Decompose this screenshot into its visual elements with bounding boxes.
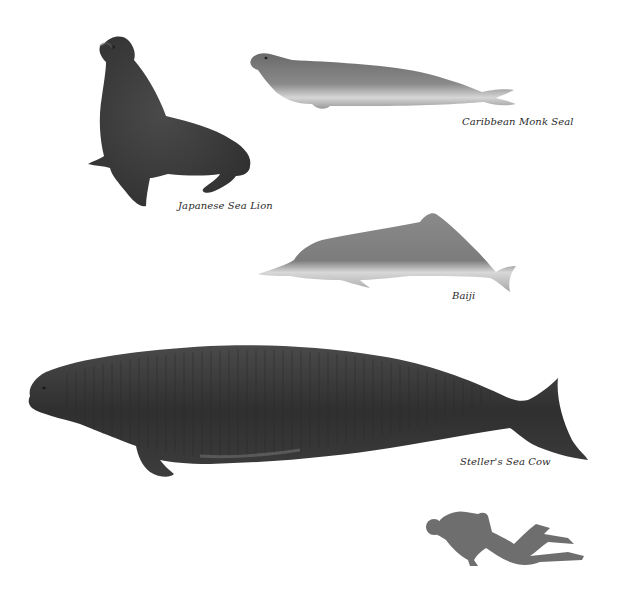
stellers-sea-cow-label: Steller's Sea Cow [460,456,551,467]
species-comparison-figure: Japanese Sea Lion Caribbean Monk Seal Ba… [0,0,619,597]
illustration-canvas [0,0,619,597]
japanese-sea-lion-label: Japanese Sea Lion [178,200,273,211]
japanese-sea-lion-figure [88,37,250,207]
scuba-diver-figure [426,511,584,566]
caribbean-monk-seal-label: Caribbean Monk Seal [462,116,574,127]
caribbean-monk-seal-figure [250,53,516,109]
baiji-figure [258,213,516,292]
baiji-label: Baiji [452,290,475,301]
